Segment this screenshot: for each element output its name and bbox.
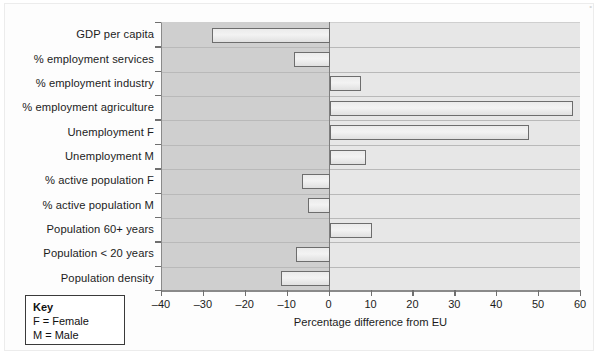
- x-tick-label: 50: [532, 298, 544, 310]
- x-tick-mark: [245, 290, 246, 296]
- bar-population-20-years: [296, 247, 330, 262]
- x-tick-mark: [454, 290, 455, 296]
- x-tick-mark: [203, 290, 204, 296]
- x-axis: –40–30–20–100102030405060: [161, 290, 580, 292]
- x-axis-title: Percentage difference from EU: [161, 316, 580, 328]
- bar-population-density: [281, 271, 330, 286]
- y-tick-label: % active population M: [6, 199, 161, 211]
- x-tick-mark: [412, 290, 413, 296]
- key-title: Key: [33, 300, 124, 314]
- x-tick-mark: [580, 290, 581, 296]
- key-line-male: M = Male: [33, 328, 124, 342]
- bar-gdp-per-capita: [212, 28, 329, 43]
- y-axis-category-labels: GDP per capita% employment services% emp…: [0, 22, 161, 290]
- x-tick-label: 60: [574, 298, 586, 310]
- x-tick-label: 10: [364, 298, 376, 310]
- y-tick-label: Population < 20 years: [6, 247, 161, 259]
- x-tick-label: 30: [448, 298, 460, 310]
- x-tick-label: 20: [406, 298, 418, 310]
- bar-active-population-f: [302, 174, 329, 189]
- bar-population-60-years: [330, 223, 373, 238]
- plot-area: [161, 22, 580, 290]
- y-tick-label: Population density: [6, 272, 161, 284]
- y-tick-label: GDP per capita: [6, 28, 161, 40]
- x-tick-label: 40: [490, 298, 502, 310]
- x-tick-label: –20: [236, 298, 254, 310]
- gridline: [162, 169, 580, 170]
- x-tick-mark: [371, 290, 372, 296]
- x-tick-label: –40: [152, 298, 170, 310]
- bar-employment-agriculture: [330, 101, 574, 116]
- x-tick-label: 0: [326, 298, 332, 310]
- key-legend-box: Key F = Female M = Male: [25, 295, 125, 345]
- gridline: [162, 72, 580, 73]
- chart-figure: • GDP per capita% employment services% e…: [0, 0, 598, 355]
- x-tick-label: –10: [278, 298, 296, 310]
- bar-unemployment-f: [330, 125, 529, 140]
- bar-employment-industry: [330, 76, 361, 91]
- y-tick-label: % employment services: [6, 53, 161, 65]
- y-tick-label: % active population F: [6, 174, 161, 186]
- x-tick-label: –30: [194, 298, 212, 310]
- bar-employment-services: [294, 52, 330, 67]
- key-line-female: F = Female: [33, 314, 124, 328]
- gridline: [162, 47, 580, 48]
- y-tick-label: Unemployment F: [6, 126, 161, 138]
- gridline: [162, 145, 580, 146]
- x-tick-mark: [287, 290, 288, 296]
- y-tick-label: Population 60+ years: [6, 223, 161, 235]
- gridline: [162, 120, 580, 121]
- gridline: [162, 242, 580, 243]
- y-tick-label: % employment agriculture: [6, 101, 161, 113]
- gridline: [162, 194, 580, 195]
- x-tick-mark: [538, 290, 539, 296]
- x-tick-mark: [496, 290, 497, 296]
- y-tick-label: % employment industry: [6, 77, 161, 89]
- bar-unemployment-m: [330, 150, 367, 165]
- gridline: [162, 267, 580, 268]
- x-tick-mark: [161, 290, 162, 296]
- x-tick-mark: [329, 290, 330, 296]
- y-tick-label: Unemployment M: [6, 150, 161, 162]
- gridline: [162, 218, 580, 219]
- corner-artifact: •: [589, 2, 592, 11]
- bar-active-population-m: [308, 198, 330, 213]
- gridline: [162, 96, 580, 97]
